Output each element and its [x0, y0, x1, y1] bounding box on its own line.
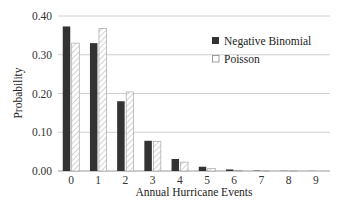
bar-chart: 0.000.100.200.300.40 0123456789 Annual H…	[0, 0, 342, 209]
bar-negative-binomial	[226, 169, 234, 171]
bars	[63, 26, 315, 171]
bar-negative-binomial	[117, 101, 125, 171]
y-axis-label: Probability	[12, 67, 25, 118]
y-tick-label: 0.00	[32, 165, 52, 177]
bar-poisson	[235, 170, 243, 171]
bar-negative-binomial	[63, 26, 71, 171]
y-axis-ticks: 0.000.100.200.300.40	[32, 10, 52, 177]
bar-poisson	[99, 28, 107, 171]
x-tick-label: 8	[286, 174, 292, 186]
x-tick-label: 5	[204, 174, 210, 186]
legend-label-negative-binomial: Negative Binomial	[224, 35, 311, 48]
x-tick-label: 0	[68, 174, 74, 186]
x-axis-label: Annual Hurricane Events	[136, 186, 253, 198]
y-tick-label: 0.10	[32, 126, 52, 138]
y-tick-label: 0.20	[32, 88, 52, 100]
x-tick-label: 3	[150, 174, 156, 186]
y-tick-label: 0.40	[32, 10, 52, 22]
bar-poisson	[181, 162, 189, 171]
y-tick-label: 0.30	[32, 49, 52, 61]
bar-negative-binomial	[90, 43, 98, 171]
x-tick-label: 1	[95, 174, 101, 186]
x-tick-label: 2	[123, 174, 129, 186]
bar-negative-binomial	[144, 141, 152, 171]
x-tick-label: 9	[313, 174, 319, 186]
x-tick-label: 6	[231, 174, 237, 186]
x-tick-label: 7	[259, 174, 265, 186]
bar-poisson	[153, 142, 161, 171]
legend-swatch-poisson	[213, 56, 220, 63]
legend-swatch-negative-binomial	[212, 37, 219, 44]
legend: Negative Binomial Poisson	[212, 35, 311, 65]
bar-poisson	[208, 168, 216, 171]
bar-poisson	[126, 92, 133, 171]
bar-negative-binomial	[199, 167, 207, 171]
bar-poisson	[72, 43, 80, 171]
x-axis-ticks: 0123456789	[68, 174, 319, 186]
legend-label-poisson: Poisson	[224, 53, 260, 65]
bar-negative-binomial	[172, 159, 180, 171]
x-tick-label: 4	[177, 174, 183, 186]
